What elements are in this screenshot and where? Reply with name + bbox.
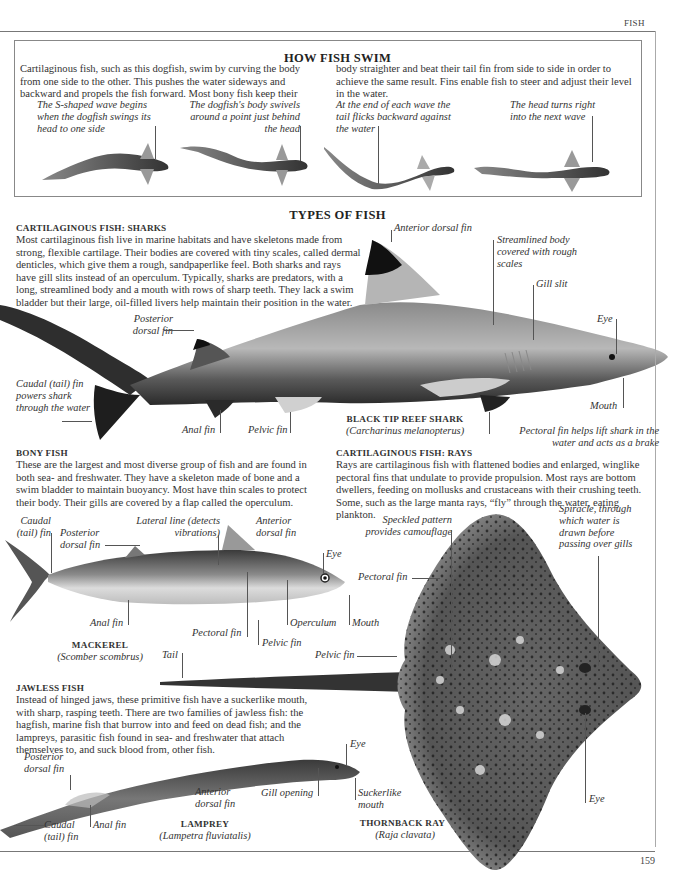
how-fish-swim-text-left: Cartilaginous fish, such as this dogfish… [20, 63, 320, 101]
shark-label-gill-slit: Gill slit [536, 278, 567, 290]
leader-line [164, 330, 194, 331]
leader-line [90, 805, 91, 827]
ray-label-tail: Tail [162, 649, 178, 661]
leader-line [182, 653, 183, 678]
mackerel-label-caudal-fin: Caudal (tail) fin [11, 515, 51, 539]
dogfish-illustration-1 [40, 135, 180, 190]
shark-label-pelvic-fin: Pelvic fin [248, 424, 288, 436]
lamprey-label-suckerlike-mouth: Suckerlike mouth [358, 787, 418, 811]
ray-label-speckled-pattern: Speckled pattern provides camouflage [362, 514, 452, 538]
jawless-fish-text: Instead of hinged jaws, these primitive … [16, 694, 326, 757]
mackerel-label-anal-fin: Anal fin [90, 617, 123, 629]
shark-label-anterior-dorsal-fin: Anterior dorsal fin [394, 222, 472, 234]
leader-line [616, 319, 617, 354]
lamprey-specimen-name: LAMPREY [145, 819, 265, 829]
ray-label-pelvic-fin: Pelvic fin [315, 649, 355, 661]
shark-specimen-name: BLACK TIP REEF SHARK [340, 414, 470, 424]
swim-step-4-label: The head turns right into the next wave [510, 99, 610, 123]
running-head: FISH [624, 18, 645, 28]
leader-line [128, 600, 129, 625]
leader-line [70, 775, 71, 790]
types-of-fish-title: TYPES OF FISH [0, 208, 675, 223]
leader-line [290, 412, 291, 433]
leader-line [105, 545, 140, 546]
leader-line [62, 421, 92, 422]
lamprey-label-gill-opening: Gill opening [261, 787, 313, 799]
leader-line [533, 285, 534, 340]
ray-label-spiracle: Spiracle, through which water is drawn b… [559, 503, 639, 550]
dogfish-illustration-2 [178, 140, 318, 190]
swim-step-3-label: At the end of each wave the tail flicks … [336, 99, 464, 134]
leader-line [346, 744, 347, 766]
leader-line [14, 825, 44, 826]
leader-line [220, 410, 221, 433]
swim-step-1-label: The S-shaped wave begins when the dogfis… [37, 99, 162, 134]
leader-line [585, 713, 586, 803]
frame-top-rule [0, 31, 655, 32]
lamprey-label-eye: Eye [350, 738, 366, 750]
leader-line [357, 656, 397, 657]
leader-line [355, 778, 356, 800]
lamprey-specimen-scientific: (Lampetra fluviatalis) [145, 830, 265, 841]
ray-label-pectoral-fin: Pectoral fin [358, 571, 407, 583]
lamprey-label-anal-fin: Anal fin [93, 819, 126, 831]
shark-label-mouth: Mouth [590, 400, 617, 412]
jawless-fish-heading: JAWLESS FISH [16, 683, 84, 693]
dogfish-illustration-4 [472, 148, 617, 193]
lamprey-label-anterior-dorsal-fin: Anterior dorsal fin [195, 786, 245, 810]
leader-line [489, 412, 490, 434]
shark-label-caudal-fin: Caudal (tail) fin powers shark through t… [16, 378, 94, 413]
shark-specimen-scientific: (Carcharinus melanopterus) [335, 425, 475, 436]
leader-line [598, 556, 599, 666]
rays-heading: CARTILAGINOUS FISH: RAYS [336, 448, 472, 458]
ray-specimen-scientific: (Raja clavata) [360, 829, 450, 840]
mackerel-specimen-scientific: (Scomber scombrus) [40, 651, 160, 662]
page-number: 159 [640, 855, 655, 866]
shark-label-anal-fin: Anal fin [182, 424, 215, 436]
leader-line [451, 530, 452, 670]
lamprey-label-caudal-fin: Caudal (tail) fin [44, 819, 84, 843]
leader-line [51, 533, 52, 573]
dogfish-illustration-3 [322, 145, 462, 195]
leader-line [623, 378, 624, 408]
shark-label-streamlined-body: Streamlined body covered with rough scal… [497, 234, 587, 269]
sharks-heading: CARTILAGINOUS FISH: SHARKS [16, 223, 166, 233]
shark-label-pectoral-fin: Pectoral fin helps lift shark in the wat… [494, 425, 659, 449]
leader-line [318, 768, 319, 796]
shark-label-posterior-dorsal-fin: Posterior dorsal fin [113, 313, 173, 337]
lamprey-label-posterior-dorsal-fin: Posterior dorsal fin [24, 751, 74, 775]
bony-fish-text: These are the largest and most diverse g… [16, 459, 316, 509]
bony-fish-heading: BONY FISH [16, 448, 68, 458]
mackerel-specimen-name: MACKEREL [40, 640, 160, 650]
leader-line [493, 240, 494, 325]
leader-line [412, 578, 440, 579]
shark-label-eye: Eye [597, 313, 613, 325]
mackerel-label-posterior-dorsal-fin: Posterior dorsal fin [60, 527, 110, 551]
swim-step-2-label: The dogfish's body swivels around a poin… [182, 99, 300, 134]
leader-line [391, 230, 392, 242]
how-fish-swim-text-right: body straighter and beat their tail fin … [336, 63, 636, 101]
ray-label-eye: Eye [589, 793, 605, 805]
